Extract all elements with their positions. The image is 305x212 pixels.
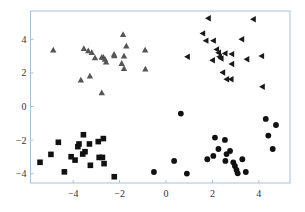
data-point bbox=[263, 116, 269, 122]
data-point bbox=[273, 122, 279, 128]
data-point bbox=[184, 171, 190, 177]
x-tick-label: 4 bbox=[256, 188, 261, 199]
data-point bbox=[101, 161, 107, 167]
x-tick-label: 0 bbox=[164, 188, 169, 199]
data-point bbox=[235, 170, 241, 176]
data-point bbox=[243, 169, 249, 175]
data-point bbox=[87, 141, 93, 147]
data-point bbox=[270, 146, 276, 152]
scatter-chart: −4−2024 −4−2024 bbox=[0, 0, 305, 212]
data-point bbox=[222, 137, 228, 143]
data-point bbox=[88, 163, 94, 169]
data-point bbox=[224, 151, 230, 157]
data-point bbox=[95, 139, 101, 145]
data-point bbox=[212, 135, 218, 141]
data-point bbox=[151, 169, 157, 175]
data-point bbox=[178, 111, 184, 117]
data-point bbox=[76, 141, 82, 147]
data-point bbox=[80, 151, 86, 157]
data-point bbox=[265, 133, 271, 139]
data-point bbox=[111, 174, 117, 180]
y-tick-label: −2 bbox=[16, 135, 27, 146]
data-point bbox=[62, 169, 68, 175]
data-point bbox=[72, 157, 78, 163]
y-tick-label: 0 bbox=[22, 101, 27, 112]
data-point bbox=[216, 146, 222, 152]
y-tick-label: 2 bbox=[22, 67, 27, 78]
data-point bbox=[101, 136, 107, 142]
y-tick-label: 4 bbox=[22, 34, 27, 45]
data-point bbox=[100, 155, 106, 161]
data-point bbox=[210, 153, 216, 159]
data-point bbox=[171, 158, 177, 164]
data-point bbox=[81, 132, 87, 138]
x-tick-label: −4 bbox=[68, 188, 79, 199]
data-point bbox=[204, 156, 210, 162]
data-point bbox=[239, 156, 245, 162]
data-point bbox=[222, 158, 228, 164]
data-point bbox=[56, 139, 62, 145]
data-point bbox=[48, 152, 54, 158]
y-tick-label: −4 bbox=[16, 168, 27, 179]
x-tick-label: −2 bbox=[114, 188, 125, 199]
x-tick-label: 2 bbox=[210, 188, 215, 199]
data-point bbox=[37, 159, 43, 165]
